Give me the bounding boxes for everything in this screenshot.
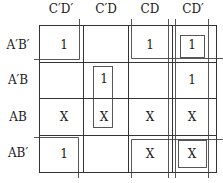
cell-r2-c1: X [100,111,109,123]
column-header-c-not-d: C′D [95,3,117,15]
column-header-c-not-d-not: C′D′ [49,3,73,15]
row-header-a-not-b-not: A′B′ [7,39,30,51]
cell-r2-c0: X [60,111,69,123]
column-header-c-d: CD [141,3,160,15]
row-header-a-not-b: A′B [8,74,28,86]
loop-corner-bottom-left [34,138,79,179]
cell-r2-c3: X [188,111,197,123]
cell-r3-c3: X [188,148,197,160]
row-header-a-b: AB [9,111,26,123]
cell-r1-c1: 1 [100,73,108,85]
cell-r0-c0: 1 [60,39,68,51]
column-header-c-d-not: CD′ [182,3,204,15]
cell-r3-c0: 1 [60,148,68,160]
cell-r0-c3: 1 [188,39,196,51]
cell-r2-c2: X [146,111,155,123]
karnaugh-map: C′D′ C′D CD CD′ A′B′ A′B AB AB′ 1 1 1 1 … [0,0,223,183]
row-header-a-b-not: AB′ [8,147,28,159]
cell-r1-c3: 1 [188,74,196,86]
cell-r0-c2: 1 [146,39,154,51]
cell-r3-c2: X [146,148,155,160]
